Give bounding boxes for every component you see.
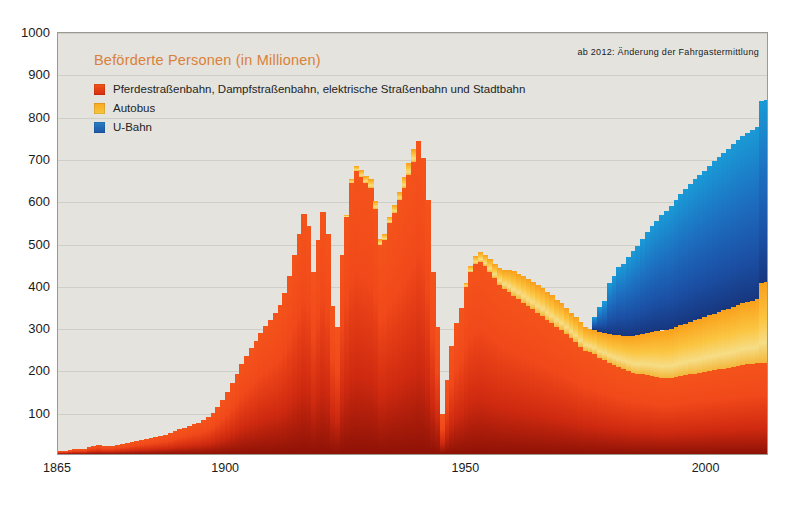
- legend-swatch-rail-icon: [94, 84, 105, 95]
- segment-rail: [764, 363, 768, 454]
- y-axis-tick-label: 900: [6, 68, 50, 81]
- y-axis-tick-label: 200: [6, 364, 50, 377]
- y-axis-tick-label: 300: [6, 322, 50, 335]
- legend-item-rail: Pferdestraßenbahn, Dampfstraßenbahn, ele…: [94, 81, 525, 97]
- chart-root: 1000900800700600500400300200100 18651900…: [0, 0, 790, 507]
- chart-title: Beförderte Personen (in Millionen): [94, 52, 321, 68]
- legend-swatch-ubahn-icon: [94, 122, 105, 133]
- legend: Pferdestraßenbahn, Dampfstraßenbahn, ele…: [94, 81, 525, 138]
- y-axis-tick-label: 600: [6, 195, 50, 208]
- legend-item-ubahn: U-Bahn: [94, 119, 525, 135]
- segment-bus: [764, 282, 768, 362]
- x-axis-tick-label: 1865: [43, 462, 71, 475]
- segment-bus: [368, 179, 373, 187]
- segment-ubahn: [764, 100, 768, 282]
- y-axis-tick-label: 1000: [6, 26, 50, 39]
- annotation-note: ab 2012: Änderung der Fahrgastermittlung: [577, 47, 759, 57]
- y-axis-tick-label: 500: [6, 237, 50, 250]
- y-axis-tick-label: 100: [6, 406, 50, 419]
- data-column: [764, 100, 768, 454]
- y-axis-tick-label: 700: [6, 152, 50, 165]
- legend-label-rail: Pferdestraßenbahn, Dampfstraßenbahn, ele…: [113, 83, 525, 95]
- legend-item-bus: Autobus: [94, 100, 525, 116]
- y-axis-tick-label: 800: [6, 110, 50, 123]
- segment-bus: [373, 201, 378, 209]
- x-axis-tick-label: 1950: [451, 462, 479, 475]
- x-axis-tick-label: 1900: [211, 462, 239, 475]
- legend-label-ubahn: U-Bahn: [113, 121, 152, 133]
- plot-area: Beförderte Personen (in Millionen) Pferd…: [57, 32, 768, 455]
- y-axis-tick-label: 400: [6, 279, 50, 292]
- x-axis-tick-label: 2000: [692, 462, 720, 475]
- legend-swatch-bus-icon: [94, 103, 105, 114]
- y-axis: 1000900800700600500400300200100: [0, 0, 50, 507]
- legend-label-bus: Autobus: [113, 102, 155, 114]
